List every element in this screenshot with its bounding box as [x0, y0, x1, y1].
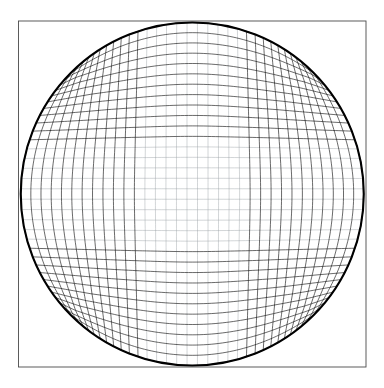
mesh-figure: [0, 0, 384, 388]
figure-background: [0, 0, 384, 388]
mesh-svg: [0, 0, 384, 388]
